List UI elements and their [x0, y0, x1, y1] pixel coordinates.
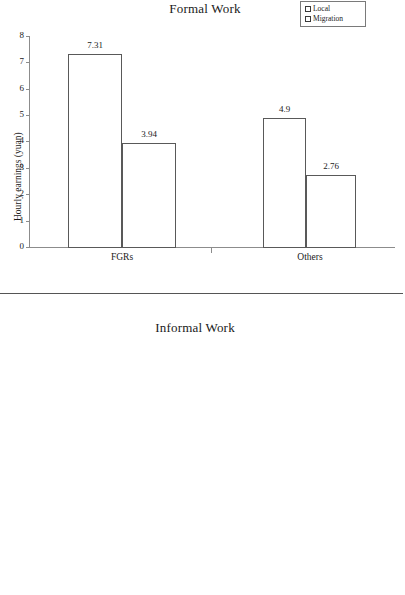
legend-label-local: Local	[313, 4, 330, 14]
y-tick-label-4: 4	[10, 135, 24, 145]
figure-informal-work: Informal Work Local Migration Hourly ear…	[0, 300, 405, 595]
bar-formal-fgrs-local[interactable]	[68, 54, 122, 248]
y-tick-label-2: 2	[10, 188, 24, 198]
category-separator-tick	[211, 247, 212, 253]
y-tick-7	[26, 62, 30, 63]
y-tick-8	[26, 36, 30, 37]
legend-entry-local[interactable]: Local	[305, 4, 361, 14]
y-tick-label-7: 7	[10, 56, 24, 66]
y-tick-1	[26, 221, 30, 222]
y-tick-2	[26, 194, 30, 195]
y-axis-title-formal: Hourly earnings (yuan)	[13, 132, 23, 221]
bar-value-formal-others-local: 4.9	[263, 104, 306, 114]
legend-formal: Local Migration	[300, 1, 366, 27]
y-tick-label-0: 0	[10, 241, 24, 251]
y-tick-label-3: 3	[10, 162, 24, 172]
bar-value-formal-others-migration: 2.76	[306, 161, 356, 171]
y-tick-0	[26, 247, 30, 248]
open-square-marker-icon	[305, 6, 311, 12]
y-tick-label-6: 6	[10, 83, 24, 93]
plot-area-formal: Hourly earnings (yuan) 8 7 6 5 4 3 2 1 0…	[0, 28, 405, 253]
x-category-label-others: Others	[280, 252, 340, 262]
chart-title-formal: Formal Work	[120, 1, 290, 17]
y-tick-label-5: 5	[10, 109, 24, 119]
bar-value-formal-fgrs-migration: 3.94	[122, 129, 176, 139]
y-tick-5	[26, 115, 30, 116]
x-category-label-fgrs: FGRs	[92, 252, 152, 262]
bar-formal-fgrs-migration[interactable]	[122, 143, 176, 248]
bar-formal-others-migration[interactable]	[306, 175, 356, 248]
bar-value-formal-fgrs-local: 7.31	[68, 40, 122, 50]
chart-title-informal: Informal Work	[110, 320, 280, 336]
open-square-marker-icon	[305, 16, 311, 22]
legend-entry-migration[interactable]: Migration	[305, 14, 361, 24]
y-tick-6	[26, 89, 30, 90]
legend-label-migration: Migration	[313, 14, 343, 24]
y-tick-label-1: 1	[10, 215, 24, 225]
bar-formal-others-local[interactable]	[263, 118, 306, 248]
figure-formal-work: Formal Work Local Migration Hourly earni…	[0, 0, 405, 293]
figure-divider	[0, 293, 403, 294]
y-tick-3	[26, 168, 30, 169]
y-tick-4	[26, 141, 30, 142]
y-tick-label-8: 8	[10, 30, 24, 40]
